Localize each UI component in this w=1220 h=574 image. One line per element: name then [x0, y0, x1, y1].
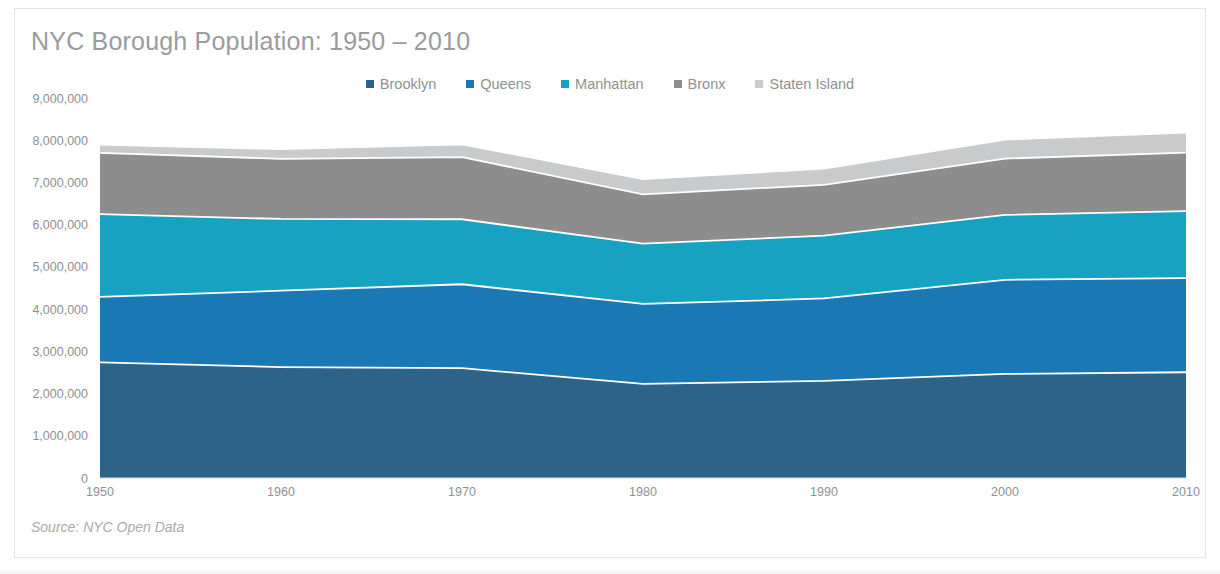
y-axis-tick-labels: 01,000,0002,000,0003,000,0004,000,0005,0… — [32, 92, 88, 486]
x-axis-tick-label: 1970 — [448, 485, 476, 499]
chart-card: NYC Borough Population: 1950 – 2010 Broo… — [0, 0, 1220, 574]
y-axis-tick-label: 7,000,000 — [32, 176, 88, 190]
y-axis-tick-label: 0 — [81, 472, 88, 486]
plot-area: 01,000,0002,000,0003,000,0004,000,0005,0… — [0, 0, 1220, 574]
y-axis-tick-label: 5,000,000 — [32, 260, 88, 274]
x-axis-tick-label: 1980 — [629, 485, 657, 499]
y-axis-tick-label: 8,000,000 — [32, 134, 88, 148]
y-axis-tick-label: 9,000,000 — [32, 92, 88, 106]
x-axis-tick-label: 1990 — [810, 485, 838, 499]
x-axis-tick-label: 1960 — [267, 485, 295, 499]
source-note: Source: NYC Open Data — [31, 519, 184, 535]
area-series-group — [100, 133, 1186, 478]
stacked-area-chart-svg: 01,000,0002,000,0003,000,0004,000,0005,0… — [0, 0, 1220, 574]
y-axis-tick-label: 2,000,000 — [32, 387, 88, 401]
y-axis-tick-label: 4,000,000 — [32, 303, 88, 317]
y-axis-tick-label: 6,000,000 — [32, 218, 88, 232]
x-axis-tick-label: 2010 — [1172, 485, 1200, 499]
x-axis-tick-label: 2000 — [991, 485, 1019, 499]
x-axis-tick-labels: 1950196019701980199020002010 — [86, 485, 1200, 499]
x-axis-tick-label: 1950 — [86, 485, 114, 499]
y-axis-tick-label: 3,000,000 — [32, 345, 88, 359]
y-axis-tick-label: 1,000,000 — [32, 429, 88, 443]
